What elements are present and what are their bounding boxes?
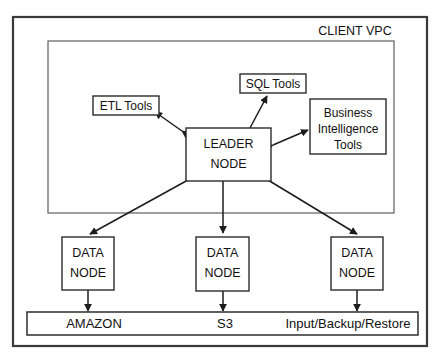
data-node-3-label-line-1: DATA <box>341 246 373 260</box>
etl-tools-label: ETL Tools <box>100 99 153 113</box>
bi-tools-label-line-1: Business <box>324 106 373 120</box>
storage-bar-label-s3: S3 <box>217 316 233 331</box>
storage-bar[interactable]: AMAZON S3 Input/Backup/Restore <box>27 312 418 335</box>
node-sql-tools[interactable]: SQL Tools <box>240 74 306 93</box>
node-bi-tools[interactable]: Business Intelligence Tools <box>310 99 386 154</box>
node-leader-node[interactable]: LEADER NODE <box>186 128 271 181</box>
data-node-2-box[interactable] <box>196 237 249 291</box>
sql-tools-label: SQL Tools <box>246 77 301 91</box>
bi-tools-label-line-2: Intelligence <box>318 122 379 136</box>
leader-node-label-line-1: LEADER <box>203 137 253 151</box>
leader-node-box[interactable] <box>186 128 271 181</box>
client-vpc-label: CLIENT VPC <box>318 24 391 38</box>
storage-bar-label-input-backup-restore: Input/Backup/Restore <box>285 316 410 331</box>
node-etl-tools[interactable]: ETL Tools <box>93 96 159 115</box>
architecture-diagram: CLIENT VPC ETL Tools SQL Tools Business … <box>0 0 443 356</box>
data-node-1-label-line-1: DATA <box>72 246 104 260</box>
node-data-node-1[interactable]: DATA NODE <box>62 237 114 290</box>
data-node-2-label-line-2: NODE <box>204 266 240 280</box>
storage-bar-label-amazon: AMAZON <box>66 316 122 331</box>
diagram-canvas: CLIENT VPC ETL Tools SQL Tools Business … <box>0 0 443 356</box>
data-node-3-label-line-2: NODE <box>339 266 375 280</box>
bi-tools-label-line-3: Tools <box>334 138 362 152</box>
data-node-1-label-line-2: NODE <box>70 266 106 280</box>
leader-node-label-line-2: NODE <box>210 157 246 171</box>
node-data-node-3[interactable]: DATA NODE <box>331 237 383 290</box>
node-data-node-2[interactable]: DATA NODE <box>196 237 249 291</box>
data-node-3-box[interactable] <box>331 237 383 290</box>
data-node-1-box[interactable] <box>62 237 114 290</box>
data-node-2-label-line-1: DATA <box>207 246 239 260</box>
